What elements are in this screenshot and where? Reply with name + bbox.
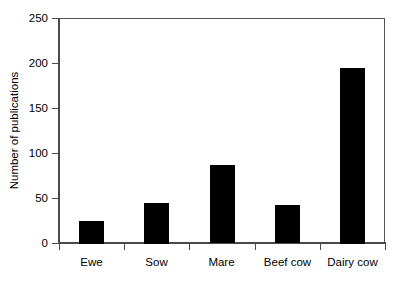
y-axis-tick-label: 50 [8,192,48,204]
y-axis-tick [52,63,59,64]
x-axis-label: Dairy cow [320,256,385,269]
bar [79,221,104,244]
x-axis-label: Ewe [59,256,124,269]
y-axis-tick [52,243,59,244]
y-axis-tick-label: 0 [8,237,48,249]
y-axis-tick-label: 100 [8,147,48,159]
x-axis-tick [124,243,125,250]
x-axis-tick [385,243,386,250]
y-axis-tick-label: 200 [8,57,48,69]
x-axis-tick [255,243,256,250]
y-axis-tick [52,198,59,199]
bar [275,205,300,243]
y-axis-title: Number of publications [6,18,22,243]
y-axis-tick [52,153,59,154]
x-axis-label: Mare [189,256,254,269]
x-axis-label: Sow [124,256,189,269]
bar [144,203,169,244]
bar-chart-figure: Number of publications 050100150200250 E… [0,0,401,286]
y-axis-tick-label: 150 [8,102,48,114]
y-axis-tick [52,18,59,19]
x-axis-label: Beef cow [255,256,320,269]
bar [210,165,235,243]
y-axis-line [58,18,60,244]
x-axis-tick [59,243,60,250]
y-axis-tick-label: 250 [8,12,48,24]
y-axis-tick [52,108,59,109]
x-axis-tick [189,243,190,250]
bar [340,68,365,244]
x-axis-tick [320,243,321,250]
